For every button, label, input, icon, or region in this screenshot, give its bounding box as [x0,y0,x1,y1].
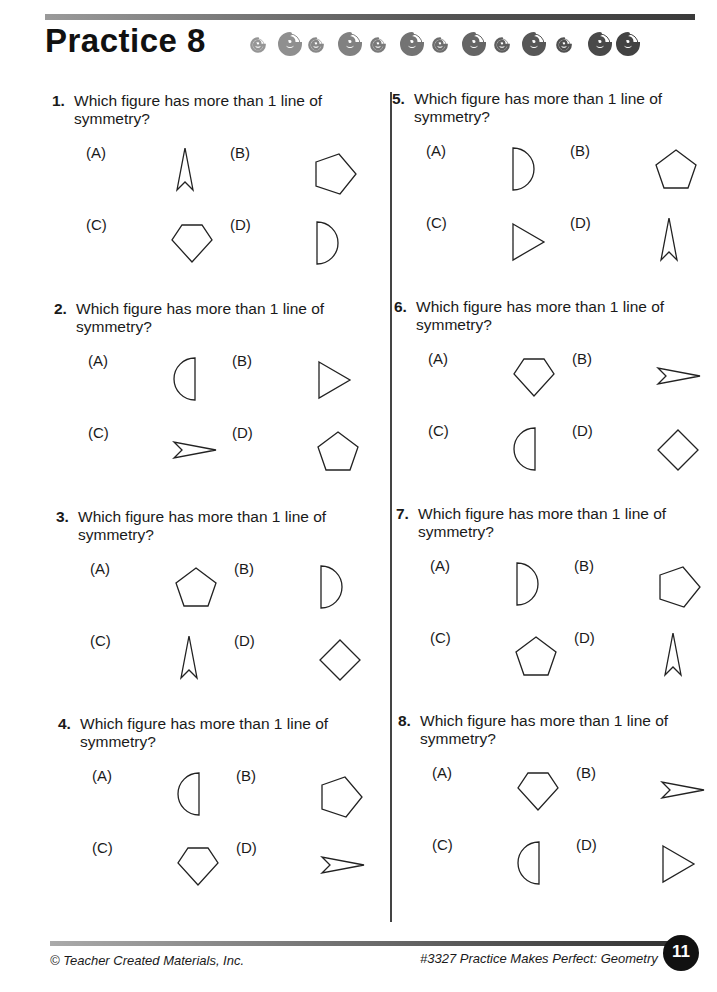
spiral-shell-icon [432,37,448,57]
question-1: 1.Which figure has more than 1 line of s… [52,92,372,292]
answer-option[interactable]: (A) [92,767,232,827]
option-label: (A) [86,144,106,161]
question-text: Which figure has more than 1 line of sym… [74,92,344,128]
question-prompt: 3.Which figure has more than 1 line of s… [56,508,356,544]
spiral-shell-icon [556,37,572,57]
answer-option[interactable]: (C) [86,216,226,276]
answer-option[interactable]: (A) [428,350,568,410]
answer-option[interactable]: (A) [426,142,566,202]
answer-option[interactable]: (D) [234,632,374,692]
spiral-shell-icon [308,37,324,57]
answer-option[interactable]: (B) [576,764,716,824]
option-label: (A) [90,560,110,577]
question-prompt: 5.Which figure has more than 1 line of s… [392,90,692,126]
option-label: (B) [230,144,250,161]
option-label: (C) [426,214,447,231]
question-text: Which figure has more than 1 line of sym… [420,712,690,748]
question-number: 6. [394,298,416,316]
option-label: (D) [572,422,593,439]
copyright-text: © Teacher Created Materials, Inc. [50,953,244,968]
option-label: (B) [576,764,596,781]
answer-option[interactable]: (A) [88,352,228,412]
option-label: (D) [236,839,257,856]
answer-option[interactable]: (D) [570,214,710,274]
option-label: (C) [88,424,109,441]
option-label: (B) [234,560,254,577]
answer-option[interactable]: (C) [88,424,228,484]
option-label: (C) [432,836,453,853]
option-label: (A) [430,557,450,574]
answer-option[interactable]: (B) [234,560,374,620]
spiral-decoration [250,32,700,62]
option-label: (B) [574,557,594,574]
option-label: (D) [574,629,595,646]
question-number: 1. [52,92,74,110]
question-prompt: 2.Which figure has more than 1 line of s… [54,300,354,336]
answer-option[interactable]: (C) [90,632,230,692]
answer-option[interactable]: (A) [432,764,572,824]
spiral-shell-icon [494,37,510,57]
question-2: 2.Which figure has more than 1 line of s… [54,300,374,500]
question-7: 7.Which figure has more than 1 line of s… [396,505,716,705]
option-label: (D) [232,424,253,441]
page-number-badge: 11 [663,935,699,971]
option-label: (A) [426,142,446,159]
question-6: 6.Which figure has more than 1 line of s… [394,298,714,498]
answer-option[interactable]: (D) [574,629,714,689]
answer-option[interactable]: (C) [426,214,566,274]
option-label: (D) [570,214,591,231]
option-label: (C) [92,839,113,856]
answer-option[interactable]: (D) [236,839,376,899]
option-label: (A) [92,767,112,784]
answer-option[interactable]: (B) [230,144,370,204]
option-label: (A) [88,352,108,369]
option-label: (C) [428,422,449,439]
option-label: (C) [430,629,451,646]
answer-option[interactable]: (B) [570,142,710,202]
question-number: 2. [54,300,76,318]
option-label: (C) [90,632,111,649]
question-4: 4.Which figure has more than 1 line of s… [58,715,378,915]
option-label: (A) [432,764,452,781]
question-text: Which figure has more than 1 line of sym… [80,715,350,751]
question-prompt: 6.Which figure has more than 1 line of s… [394,298,694,334]
answer-option[interactable]: (A) [90,560,230,620]
answer-option[interactable]: (B) [572,350,712,410]
answer-option[interactable]: (D) [232,424,372,484]
question-number: 3. [56,508,78,526]
option-label: (D) [576,836,597,853]
question-number: 7. [396,505,418,523]
spiral-shell-icon [338,32,362,60]
answer-option[interactable]: (A) [86,144,226,204]
header-rule [45,14,695,20]
answer-option[interactable]: (D) [230,216,370,276]
option-label: (D) [230,216,251,233]
answer-option[interactable]: (C) [428,422,568,482]
spiral-shell-icon [370,37,386,57]
book-title: #3327 Practice Makes Perfect: Geometry [420,951,658,966]
option-label: (B) [236,767,256,784]
answer-option[interactable]: (D) [572,422,712,482]
question-text: Which figure has more than 1 line of sym… [76,300,346,336]
answer-option[interactable]: (B) [232,352,372,412]
spiral-shell-icon [616,32,640,60]
question-text: Which figure has more than 1 line of sym… [416,298,686,334]
footer-rule [50,941,670,946]
question-prompt: 1.Which figure has more than 1 line of s… [52,92,352,128]
question-prompt: 7.Which figure has more than 1 line of s… [396,505,696,541]
answer-option[interactable]: (B) [574,557,714,617]
question-number: 4. [58,715,80,733]
spiral-shell-icon [522,32,546,60]
answer-option[interactable]: (B) [236,767,376,827]
answer-option[interactable]: (C) [430,629,570,689]
answer-option[interactable]: (C) [92,839,232,899]
spiral-shell-icon [250,37,266,57]
answer-option[interactable]: (A) [430,557,570,617]
question-5: 5.Which figure has more than 1 line of s… [392,90,712,290]
page-title: Practice 8 [45,22,206,60]
answer-option[interactable]: (C) [432,836,572,896]
option-label: (D) [234,632,255,649]
question-prompt: 4.Which figure has more than 1 line of s… [58,715,358,751]
spiral-shell-icon [278,32,302,60]
answer-option[interactable]: (D) [576,836,716,896]
